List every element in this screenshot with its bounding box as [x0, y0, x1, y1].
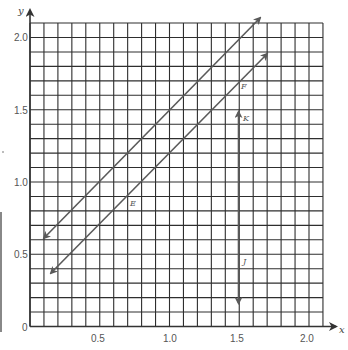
- y-tick-1.5: 1.5: [14, 105, 28, 116]
- upper-line: [44, 18, 260, 238]
- x-tick-0.5: 0.5: [91, 333, 105, 344]
- origin-label: 0: [22, 322, 28, 333]
- x-axis-label: x: [339, 324, 345, 335]
- x-tick-1.0: 1.0: [163, 333, 177, 344]
- label-f: F: [240, 82, 247, 91]
- label-j: J: [241, 257, 247, 266]
- edge-bar: [0, 212, 2, 332]
- y-axis-label: y: [17, 5, 24, 16]
- y-tick-2.0: 2.0: [14, 32, 28, 43]
- grid: [30, 23, 323, 326]
- y-tick-1.0: 1.0: [14, 177, 28, 188]
- x-tick-1.5: 1.5: [230, 333, 244, 344]
- edge-dot: [2, 151, 4, 153]
- label-e: E: [129, 199, 136, 208]
- coordinate-graph: x y 0 0.5 1.0 1.5 2.0 0.5 1.0 1.5 2.0 E …: [0, 0, 348, 350]
- y-tick-0.5: 0.5: [14, 249, 28, 260]
- x-tick-2.0: 2.0: [300, 333, 314, 344]
- label-k: K: [242, 114, 250, 123]
